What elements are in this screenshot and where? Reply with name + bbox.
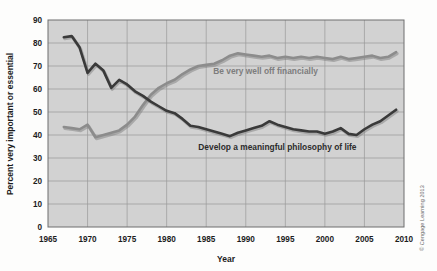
y-tick-label: 20	[33, 177, 43, 186]
x-tick-label: 1965	[39, 235, 58, 244]
y-tick-label: 60	[33, 85, 43, 94]
series-label: Develop a meaningful philosophy of life	[198, 142, 357, 152]
series-label: Be very well off financially	[213, 66, 318, 76]
y-axis-title: Percent very important or essential	[5, 53, 15, 195]
chart-figure: 0102030405060708090 19651970197519801985…	[0, 0, 437, 271]
y-tick-label: 70	[33, 62, 43, 71]
x-tick-label: 2005	[355, 235, 374, 244]
x-tick-label: 1985	[197, 235, 216, 244]
x-tick-label: 1990	[237, 235, 256, 244]
y-tick-label: 30	[33, 154, 43, 163]
plot-background	[48, 20, 404, 227]
y-tick-label: 0	[37, 223, 42, 232]
y-tick-label: 10	[33, 200, 43, 209]
x-tick-label: 1975	[118, 235, 137, 244]
y-tick-label: 90	[33, 16, 43, 25]
y-axis-tick-labels: 0102030405060708090	[33, 16, 43, 232]
y-tick-label: 80	[33, 39, 43, 48]
x-axis-title: Year	[217, 254, 236, 264]
y-tick-label: 40	[33, 131, 43, 140]
x-tick-label: 1995	[276, 235, 295, 244]
x-tick-label: 1970	[78, 235, 97, 244]
x-tick-label: 2000	[316, 235, 335, 244]
x-axis-tick-labels: 1965197019751980198519901995200020052010	[39, 235, 414, 244]
y-tick-label: 50	[33, 108, 43, 117]
x-tick-label: 1980	[158, 235, 177, 244]
x-tick-label: 2010	[395, 235, 414, 244]
line-chart: 0102030405060708090 19651970197519801985…	[0, 0, 437, 271]
copyright-credit: © Cengage Learning 2013	[419, 185, 425, 251]
